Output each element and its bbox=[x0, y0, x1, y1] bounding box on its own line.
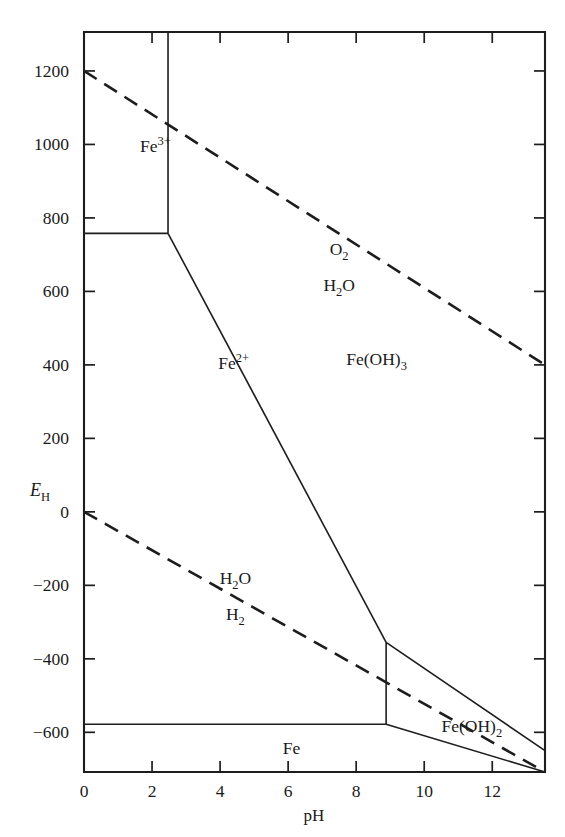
stability-label-subscript: 2 bbox=[342, 249, 348, 263]
y-tick-label-7: −200 bbox=[33, 575, 69, 595]
phase-label-superscript: 3+ bbox=[158, 134, 171, 148]
phase-label-subscript: 3 bbox=[401, 359, 407, 373]
phase-label-ferric-ion: Fe3+ bbox=[140, 134, 171, 156]
stability-label-tail: O bbox=[342, 275, 355, 295]
phase-region-labels: Fe3+Fe2+Fe(OH)3Fe(OH)2Fe bbox=[140, 134, 502, 759]
phase-label-base: Fe bbox=[283, 738, 301, 758]
y-tick-label-3: 600 bbox=[43, 281, 70, 301]
stability-line-labels: O2H2OH2OH2 bbox=[220, 239, 355, 629]
stability-label-water-upper: H2O bbox=[323, 275, 355, 299]
y-tick-label-9: −600 bbox=[33, 722, 69, 742]
stability-label-water-lower: H2O bbox=[220, 568, 252, 592]
stability-line-7 bbox=[84, 71, 545, 365]
y-tick-label-6: 0 bbox=[60, 502, 69, 522]
x-tick-label-2: 4 bbox=[216, 781, 225, 801]
stability-label-base: O bbox=[330, 239, 343, 259]
y-axis-title-symbol: E bbox=[29, 480, 41, 500]
stability-label-base: H bbox=[226, 604, 239, 624]
x-axis-tick-labels: 024681012 bbox=[80, 781, 501, 801]
y-tick-label-2: 800 bbox=[43, 208, 70, 228]
svg-text:EH: EH bbox=[29, 480, 50, 504]
x-tick-label-4: 8 bbox=[352, 781, 361, 801]
stability-label-oxygen: O2 bbox=[330, 239, 349, 263]
water-stability-limits bbox=[84, 71, 545, 772]
y-tick-label-1: 1000 bbox=[34, 134, 69, 154]
phase-label-base: Fe bbox=[218, 353, 236, 373]
y-tick-label-4: 400 bbox=[43, 355, 70, 375]
x-tick-label-1: 2 bbox=[148, 781, 157, 801]
x-tick-label-0: 0 bbox=[80, 781, 89, 801]
phase-label-base: Fe bbox=[140, 136, 158, 156]
y-axis-title-subscript: H bbox=[41, 490, 50, 504]
phase-label-ferrous-ion: Fe2+ bbox=[218, 351, 249, 373]
y-tick-label-8: −400 bbox=[33, 649, 69, 669]
stability-label-base: H bbox=[323, 275, 336, 295]
x-tick-label-3: 6 bbox=[284, 781, 293, 801]
phase-label-base: Fe(OH) bbox=[442, 716, 497, 736]
y-tick-label-5: 200 bbox=[43, 428, 70, 448]
x-axis-title: pH bbox=[304, 806, 325, 825]
y-axis-ticks bbox=[84, 71, 545, 732]
phase-label-subscript: 2 bbox=[496, 726, 502, 740]
stability-label-tail: O bbox=[239, 568, 252, 588]
y-axis-tick-labels: 120010008006004002000−200−400−600 bbox=[33, 61, 69, 742]
phase-label-superscript: 2+ bbox=[236, 351, 249, 365]
stability-label-hydrogen: H2 bbox=[226, 604, 245, 628]
stability-label-subscript: 2 bbox=[239, 614, 245, 628]
phase-label-iron-metal: Fe bbox=[283, 738, 301, 758]
y-tick-label-0: 1200 bbox=[34, 61, 69, 81]
stability-label-base: H bbox=[220, 568, 233, 588]
x-tick-label-5: 10 bbox=[415, 781, 433, 801]
phase-label-base: Fe(OH) bbox=[346, 349, 401, 369]
y-axis-title: EH bbox=[29, 480, 50, 504]
pourbaix-diagram-figure: 120010008006004002000−200−400−600 024681… bbox=[0, 0, 565, 837]
x-tick-label-6: 12 bbox=[484, 781, 502, 801]
phase-label-ferrous-hydroxide: Fe(OH)2 bbox=[442, 716, 503, 740]
pourbaix-plot-svg: 120010008006004002000−200−400−600 024681… bbox=[0, 0, 565, 837]
phase-label-ferric-hydroxide: Fe(OH)3 bbox=[346, 349, 407, 373]
